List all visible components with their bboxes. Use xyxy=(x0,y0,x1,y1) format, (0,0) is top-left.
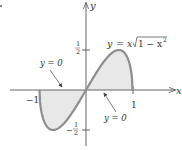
annotation-right: y = 0 xyxy=(103,113,127,123)
svg-text:1: 1 xyxy=(76,40,80,48)
func-sup: 2 xyxy=(163,36,167,43)
func-y: y xyxy=(106,38,113,49)
annotation-left-arrow xyxy=(50,70,62,87)
function-label: y = x 1 − x 2 xyxy=(106,36,167,49)
function-graph: x y y = x 1 − x 2 1 2 − 1 2 −1 1 y = 0 y… xyxy=(0,0,182,150)
func-eq: = xyxy=(116,38,124,49)
tick-label-neghalf: − 1 2 xyxy=(66,121,78,137)
svg-text:2: 2 xyxy=(76,48,80,56)
tick-label-neg1: −1 xyxy=(26,95,39,105)
tick-label-1: 1 xyxy=(131,100,137,110)
svg-text:1: 1 xyxy=(74,121,78,129)
y-axis-label: y xyxy=(89,0,96,11)
corner-mark xyxy=(0,5,2,7)
func-rad: 1 − x xyxy=(138,39,162,49)
x-axis-label: x xyxy=(176,85,182,96)
svg-text:−: − xyxy=(66,126,73,135)
svg-text:2: 2 xyxy=(74,129,78,137)
func-x: x xyxy=(127,38,133,49)
annotation-left: y = 0 xyxy=(39,58,63,68)
tick-label-half: 1 2 xyxy=(75,40,80,56)
annotation-right-arrow xyxy=(104,93,116,112)
